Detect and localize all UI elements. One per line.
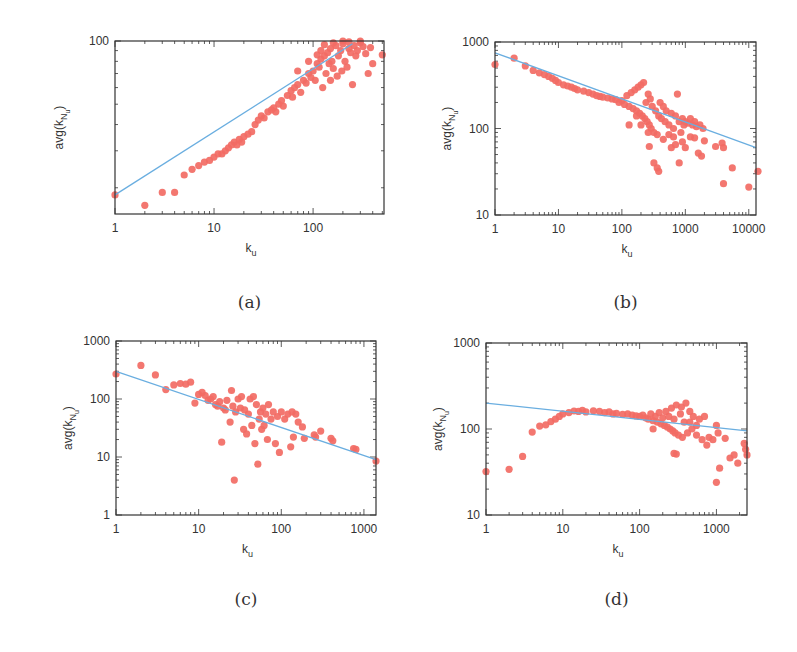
data-point — [362, 50, 369, 57]
data-point — [322, 70, 329, 77]
data-point — [159, 189, 166, 196]
x-tick-label: 100 — [612, 222, 632, 236]
x-tick-label: 100 — [630, 522, 650, 536]
data-point — [170, 381, 177, 388]
subfigure-caption: (a) — [238, 292, 261, 312]
data-point — [699, 436, 706, 443]
data-point — [330, 39, 337, 46]
data-point — [349, 81, 356, 88]
data-point — [191, 400, 198, 407]
data-point — [248, 128, 255, 135]
data-point — [677, 129, 684, 136]
data-point — [379, 51, 386, 58]
data-point — [228, 387, 235, 394]
data-point — [272, 108, 279, 115]
data-point — [633, 112, 640, 119]
data-point — [181, 171, 188, 178]
data-point — [693, 432, 700, 439]
data-point — [338, 67, 345, 74]
y-axis-label: avg(kNu) — [440, 107, 459, 151]
data-point — [536, 423, 543, 430]
data-point — [734, 460, 741, 467]
data-point — [712, 143, 719, 150]
data-point — [650, 425, 657, 432]
scatter-points — [111, 37, 386, 209]
x-axis-label: ku — [613, 542, 624, 559]
data-point — [647, 95, 654, 102]
y-tick-label: 1000 — [462, 35, 489, 49]
data-point — [720, 180, 727, 187]
data-point — [677, 410, 684, 417]
data-point — [637, 121, 644, 128]
data-point — [267, 416, 274, 423]
data-point — [640, 79, 647, 86]
data-point — [294, 67, 301, 74]
data-point — [317, 428, 324, 435]
fit-line — [495, 53, 756, 148]
x-tick-label: 100 — [303, 221, 323, 235]
y-tick-label: 1000 — [83, 334, 110, 348]
data-point — [682, 144, 689, 151]
subfigure-caption: (d) — [604, 589, 628, 609]
y-tick-label: 10 — [476, 208, 490, 222]
data-point — [261, 114, 268, 121]
data-point — [231, 477, 238, 484]
data-point — [317, 47, 324, 54]
data-point — [674, 91, 681, 98]
data-point — [187, 379, 194, 386]
x-tick-label: 1 — [113, 522, 120, 536]
data-point — [590, 407, 597, 414]
x-axis-label: ku — [246, 241, 257, 258]
data-point — [670, 416, 677, 423]
x-tick-label: 1000 — [703, 522, 730, 536]
y-tick-label: 10 — [467, 508, 481, 522]
data-point — [299, 423, 306, 430]
data-point — [276, 449, 283, 456]
data-point — [264, 436, 271, 443]
data-point — [660, 136, 667, 143]
y-tick-label: 100 — [90, 392, 110, 406]
data-point — [506, 466, 513, 473]
chart-panel-d: 1101001000101001000kuavg(kNu)(d) — [431, 336, 751, 609]
data-point — [171, 189, 178, 196]
x-tick-label: 1 — [483, 522, 490, 536]
x-tick-label: 1000 — [351, 522, 378, 536]
data-point — [227, 419, 234, 426]
data-point — [729, 164, 736, 171]
x-tick-label: 10 — [556, 522, 570, 536]
data-point — [312, 77, 319, 84]
data-point — [367, 44, 374, 51]
data-point — [701, 413, 708, 420]
data-point — [327, 77, 334, 84]
data-point — [262, 411, 269, 418]
data-point — [731, 451, 738, 458]
data-point — [646, 143, 653, 150]
data-point — [673, 451, 680, 458]
data-point — [698, 153, 705, 160]
x-tick-label: 10000 — [732, 222, 766, 236]
data-point — [670, 125, 677, 132]
data-point — [278, 408, 285, 415]
axis-ticks — [486, 343, 747, 515]
y-tick-label: 100 — [460, 422, 480, 436]
x-axis-label: ku — [242, 542, 253, 559]
y-tick-label: 1 — [103, 508, 110, 522]
data-point — [329, 437, 336, 444]
scatter-points — [112, 362, 379, 484]
y-tick-label: 1000 — [453, 336, 480, 350]
x-tick-label: 1000 — [672, 222, 699, 236]
data-point — [722, 435, 729, 442]
data-point — [223, 397, 230, 404]
plot-frame — [486, 343, 747, 515]
y-axis-label: avg(kNu) — [52, 106, 71, 150]
data-point — [152, 371, 159, 378]
data-point — [251, 440, 258, 447]
data-point — [294, 81, 301, 88]
data-point — [529, 429, 536, 436]
data-point — [303, 80, 310, 87]
data-point — [141, 202, 148, 209]
data-point — [691, 134, 698, 141]
subfigure-caption: (b) — [613, 292, 637, 312]
data-point — [248, 422, 255, 429]
data-point — [701, 137, 708, 144]
